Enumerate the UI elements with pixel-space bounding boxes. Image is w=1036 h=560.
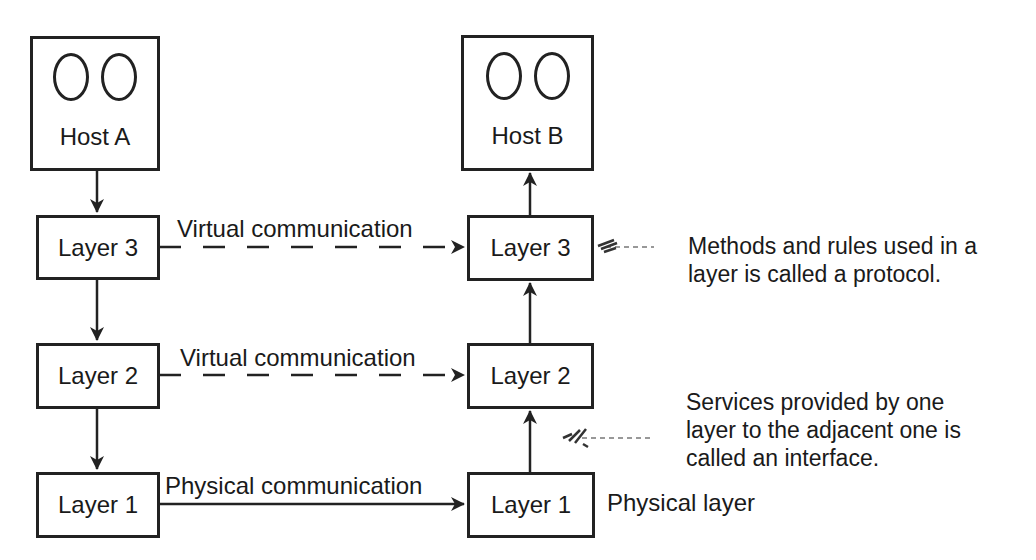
physical-layer-label: Physical layer (607, 491, 755, 515)
right-layer1-box: Layer 1 (467, 472, 595, 538)
host-b-box: Host B (461, 35, 594, 171)
left-layer1-box: Layer 1 (36, 472, 160, 538)
host-a-box: Host A (30, 36, 160, 171)
interface-pointer (563, 429, 654, 447)
layer3-link-label: Virtual communication (177, 217, 413, 241)
host-b-label: Host B (491, 122, 563, 150)
left-layer3-box: Layer 3 (36, 215, 160, 280)
right-layer2-box: Layer 2 (467, 343, 594, 409)
left-layer2-box: Layer 2 (36, 343, 160, 409)
layer1-link-label: Physical communication (165, 474, 422, 498)
interface-note: Services provided by one layer to the ad… (686, 388, 961, 472)
terminal-icon (53, 53, 137, 101)
host-a-label: Host A (60, 123, 131, 151)
layer2-link-label: Virtual communication (180, 346, 416, 370)
protocol-pointer (598, 240, 654, 252)
protocol-note: Methods and rules used in a layer is cal… (688, 232, 977, 288)
right-layer3-box: Layer 3 (467, 215, 594, 281)
terminal-icon (486, 52, 570, 100)
